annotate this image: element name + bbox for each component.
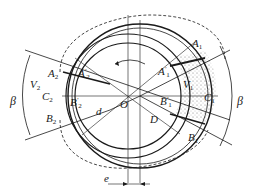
label-B1: B1 — [188, 132, 198, 145]
label-A2: A2 — [48, 68, 58, 81]
label-D: D — [150, 114, 158, 125]
beta-arc-right — [220, 46, 232, 146]
label-C2: C2 — [42, 91, 53, 104]
label-e: e — [104, 173, 109, 184]
label-A1-prime: A′1 — [158, 66, 170, 79]
label-A2-prime: A′2 — [78, 68, 90, 81]
vane-pump-drawing — [0, 0, 253, 194]
label-beta-right: β — [237, 95, 243, 107]
beta-arc-left — [22, 55, 30, 135]
label-V2: V2 — [30, 79, 40, 92]
rotation-arrow — [115, 60, 145, 64]
diagram-canvas: A1 A′1 A2 A′2 B′1 B1 B2 B′2 C1 C2 V1 V2 … — [0, 0, 253, 194]
label-B2-prime: B′2 — [70, 97, 82, 110]
label-B1-prime: B′1 — [160, 96, 172, 109]
label-B2: B2 — [46, 113, 56, 126]
label-d: d — [96, 106, 102, 117]
label-beta-left: β — [10, 95, 16, 107]
label-O: O — [120, 99, 128, 110]
label-A1: A1 — [192, 38, 202, 51]
label-C1: C1 — [204, 92, 215, 105]
label-V1: V1 — [183, 79, 193, 92]
